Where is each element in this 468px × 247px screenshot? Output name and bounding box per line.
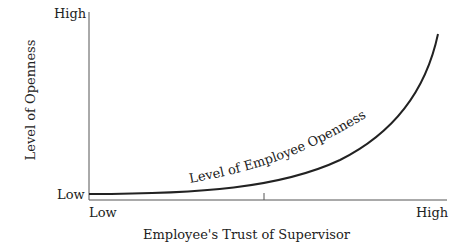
- curve-label: Level of Employee Openness: [188, 107, 368, 186]
- chart-canvas: Level of Employee Openness: [0, 0, 468, 247]
- x-axis-title: Employee's Trust of Supervisor: [143, 227, 350, 242]
- y-axis-title: Level of Openness: [23, 40, 38, 161]
- x-low-label: Low: [89, 205, 117, 220]
- y-high-label: High: [54, 6, 86, 21]
- x-high-label: High: [416, 205, 448, 220]
- openness-curve: [89, 34, 438, 194]
- y-low-label: Low: [57, 187, 85, 202]
